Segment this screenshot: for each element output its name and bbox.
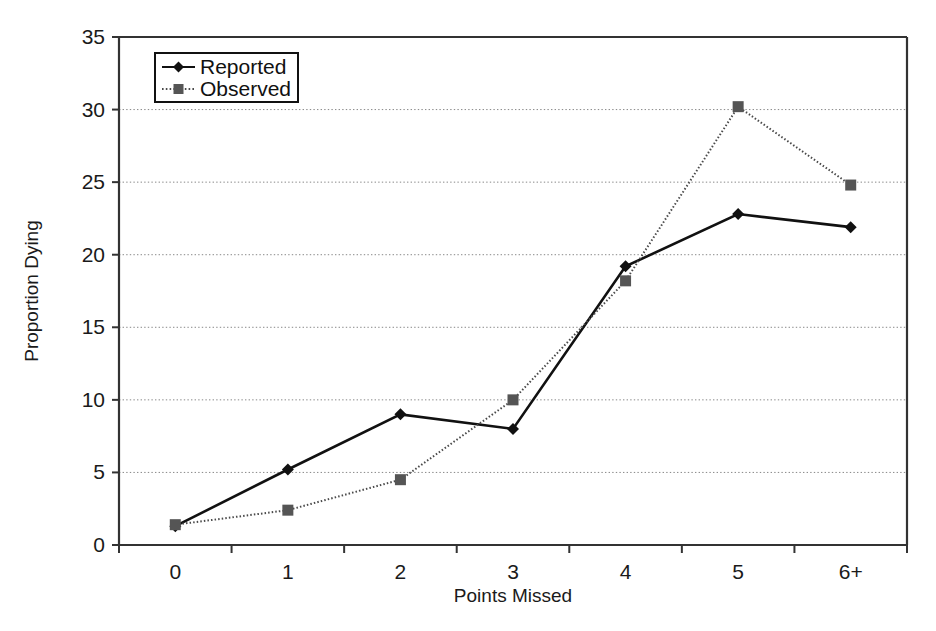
chart-legend: Reported Observed (155, 53, 298, 102)
data-point-marker (845, 180, 856, 191)
y-axis-tick-label: 20 (82, 243, 105, 266)
data-point-marker (508, 394, 519, 405)
data-point-marker (733, 101, 744, 112)
x-axis-tick-label: 6+ (839, 560, 863, 583)
y-axis-tick-label: 15 (82, 315, 105, 338)
data-point-marker (282, 505, 293, 516)
data-point-marker (620, 275, 631, 286)
x-axis-tick-group: 0123456+ (119, 545, 907, 583)
plot-area-background (119, 37, 907, 545)
y-axis-tick-label: 30 (82, 98, 105, 121)
x-axis-tick-label: 3 (507, 560, 519, 583)
x-axis-tick-label: 4 (620, 560, 632, 583)
x-axis-tick-label: 2 (395, 560, 407, 583)
legend-label-observed: Observed (200, 77, 291, 100)
y-axis-tick-group: 05101520253035 (82, 25, 119, 556)
chart-figure: 05101520253035 0123456+ Points Missed Pr… (0, 0, 936, 631)
x-axis-tick-label: 0 (169, 560, 181, 583)
y-axis-tick-label: 25 (82, 170, 105, 193)
line-chart: 05101520253035 0123456+ Points Missed Pr… (0, 0, 936, 631)
legend-label-reported: Reported (200, 55, 286, 78)
y-axis-tick-label: 5 (93, 460, 105, 483)
x-axis-tick-label: 1 (282, 560, 294, 583)
x-axis-tick-label: 5 (732, 560, 744, 583)
x-axis-title: Points Missed (454, 585, 572, 606)
y-axis-tick-label: 35 (82, 25, 105, 48)
data-point-marker (170, 519, 181, 530)
data-point-marker (395, 474, 406, 485)
square-marker-icon (174, 84, 184, 94)
y-axis-tick-label: 10 (82, 388, 105, 411)
y-axis-tick-label: 0 (93, 533, 105, 556)
y-axis-title: Proportion Dying (21, 220, 42, 362)
